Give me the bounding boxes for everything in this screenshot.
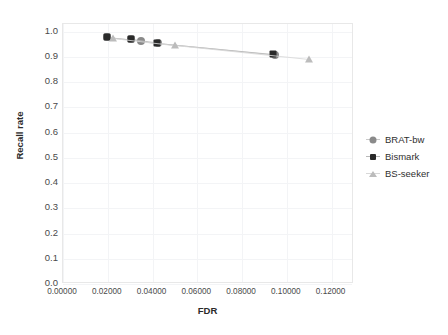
gridline-horizontal — [63, 284, 352, 285]
legend-item-bs-seeker[interactable]: BS-seeker — [366, 165, 448, 182]
gridline-horizontal — [63, 158, 352, 159]
gridline-vertical — [63, 24, 64, 282]
legend-item-label: Bismark — [385, 151, 419, 162]
y-axis-tick-label: 0.8 — [18, 76, 58, 86]
legend-item-bismark[interactable]: Bismark — [366, 148, 448, 165]
chart-legend: BRAT-bwBismarkBS-seeker — [366, 131, 448, 182]
triangle-marker-icon — [171, 41, 179, 48]
y-axis-tick-label: 1.0 — [18, 26, 58, 36]
x-axis-tick-label: 0.12000 — [301, 287, 361, 297]
gridline-horizontal — [63, 107, 352, 108]
y-axis-tick-label: 0.3 — [18, 202, 58, 212]
circle-marker-icon — [370, 136, 377, 143]
y-axis-tick-label: 0.6 — [18, 127, 58, 137]
gridline-vertical — [197, 24, 198, 282]
legend-item-label: BS-seeker — [385, 168, 429, 179]
y-axis-tick-label: 0.7 — [18, 101, 58, 111]
gridline-vertical — [108, 24, 109, 282]
y-axis-tick-label: 0.4 — [18, 177, 58, 187]
gridline-horizontal — [63, 82, 352, 83]
square-marker-icon — [370, 154, 376, 160]
y-axis-tick-label: 0.5 — [18, 152, 58, 162]
legend-item-label: BRAT-bw — [385, 134, 424, 145]
gridline-horizontal — [63, 183, 352, 184]
y-axis-tick-label: 0.2 — [18, 228, 58, 238]
recall-vs-fdr-scatter-chart: Recall rate 0.00.10.20.30.40.50.60.70.80… — [0, 0, 448, 335]
y-axis-tick-label: 0.1 — [18, 253, 58, 263]
triangle-marker-icon — [369, 171, 377, 177]
y-axis-tick-label: 0.9 — [18, 51, 58, 61]
legend-item-brat-bw[interactable]: BRAT-bw — [366, 131, 448, 148]
gridline-vertical — [332, 24, 333, 282]
gridline-horizontal — [63, 208, 352, 209]
gridline-vertical — [153, 24, 154, 282]
gridline-vertical — [242, 24, 243, 282]
gridline-horizontal — [63, 234, 352, 235]
triangle-marker-icon — [305, 55, 313, 62]
gridline-horizontal — [63, 259, 352, 260]
gridline-horizontal — [63, 133, 352, 134]
triangle-marker-icon — [109, 34, 117, 41]
plot-area — [62, 23, 353, 283]
x-axis-title: FDR — [62, 305, 353, 316]
gridline-vertical — [287, 24, 288, 282]
